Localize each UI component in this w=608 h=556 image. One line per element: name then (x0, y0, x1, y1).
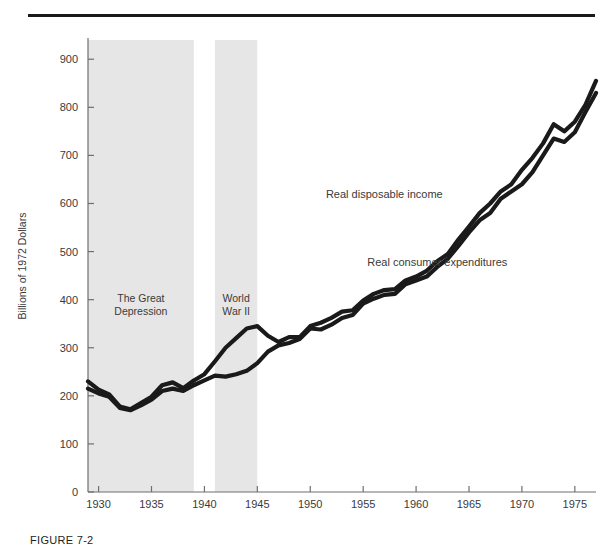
y-tick-label: 700 (60, 149, 78, 161)
y-tick-label: 0 (72, 486, 78, 498)
y-tick-label: 400 (60, 294, 78, 306)
y-tick-label: 500 (60, 246, 78, 258)
y-tick-label: 300 (60, 342, 78, 354)
y-tick-label: 100 (60, 438, 78, 450)
x-tick-label: 1930 (86, 498, 110, 510)
y-tick-label: 600 (60, 197, 78, 209)
x-tick-label: 1950 (298, 498, 322, 510)
x-tick-label: 1955 (351, 498, 375, 510)
x-tick-label: 1975 (563, 498, 587, 510)
x-tick-label: 1970 (510, 498, 534, 510)
band-label-great-depression: The Great (117, 292, 164, 304)
figure-container: 0100200300400500600700800900 19301935194… (0, 0, 608, 556)
shaded-bands-group (88, 40, 257, 492)
line-chart: 0100200300400500600700800900 19301935194… (0, 0, 608, 520)
band-label-great-depression: Depression (114, 305, 167, 317)
band-label-world-war-ii: War II (222, 305, 250, 317)
figure-caption: FIGURE 7-2 (30, 534, 94, 546)
x-tick-label: 1960 (404, 498, 428, 510)
y-tick-label: 200 (60, 390, 78, 402)
x-tick-label: 1965 (457, 498, 481, 510)
y-axis-title-group: Billions of 1972 Dollars (16, 213, 28, 320)
series-label-real-disposable-income: Real disposable income (326, 188, 443, 200)
x-tick-label: 1945 (245, 498, 269, 510)
band-label-world-war-ii: World (223, 292, 250, 304)
y-tick-label: 900 (60, 53, 78, 65)
y-axis-title: Billions of 1972 Dollars (16, 213, 28, 320)
shaded-band-world-war-ii (215, 40, 257, 492)
x-tick-label: 1940 (192, 498, 216, 510)
y-tick-label: 800 (60, 101, 78, 113)
shaded-band-great-depression (88, 40, 194, 492)
x-tick-label: 1935 (139, 498, 163, 510)
series-label-real-consumer-expenditures: Real consumer expenditures (367, 256, 508, 268)
series-label-group: Real disposable incomeReal consumer expe… (326, 188, 508, 268)
